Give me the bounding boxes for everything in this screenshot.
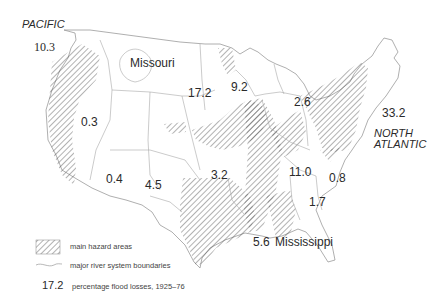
legend-hazard-swatch <box>36 240 60 254</box>
value-great-lakes: 2.6 <box>294 96 311 108</box>
us-map <box>0 0 445 302</box>
value-rio-grande: 4.5 <box>145 179 162 191</box>
value-upper-mississippi: 9.2 <box>231 81 248 93</box>
legend-river-swatch <box>36 264 62 266</box>
value-arkansas: 3.2 <box>211 169 228 181</box>
value-south-atlantic: 0.8 <box>329 172 346 184</box>
value-southeast: 1.7 <box>309 196 326 208</box>
legend-river-label: major river system boundaries <box>70 262 170 270</box>
value-great-basin: 0.3 <box>81 116 98 128</box>
value-colorado: 0.4 <box>106 173 123 185</box>
value-pacific: 10.3 <box>34 41 55 53</box>
region-label-mississippi: Mississippi <box>275 236 333 248</box>
value-lower-mississippi: 5.6 <box>253 236 270 248</box>
legend-value-label: percentage flood losses, 1925–76 <box>72 283 185 291</box>
pacific-ocean-label: PACIFIC <box>22 19 65 30</box>
hazard-areas <box>48 44 368 266</box>
legend-hazard-label: main hazard areas <box>70 243 132 251</box>
legend-value-sample: 17.2 <box>42 280 63 291</box>
value-north-atlantic: 33.2 <box>382 107 405 119</box>
region-label-missouri: Missouri <box>130 57 175 69</box>
value-ohio: 11.0 <box>289 166 311 178</box>
value-missouri: 17.2 <box>188 87 211 99</box>
north-atlantic-label-line2: ATLANTIC <box>374 139 426 150</box>
